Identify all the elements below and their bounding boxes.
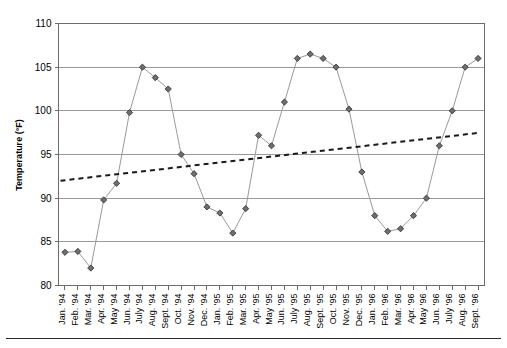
x-axis-tick-label: Mar. '96 [393,294,403,326]
x-axis-tick-label: Mar. '95 [238,294,248,326]
y-axis-title-text: Temperature (°F) [14,119,24,190]
y-axis-tick-label: 80 [40,280,52,291]
x-axis-tick-label: Nov. '94 [186,294,196,326]
x-axis-tick-label: Aug. '94 [147,294,157,327]
y-axis-tick-label: 85 [40,236,52,247]
y-axis-tick-label: 95 [40,149,52,160]
x-axis-tick-label: Nov. '95 [341,294,351,326]
x-axis-tick-label: Dec. '94 [199,294,209,327]
x-axis-tick-label: Jun. '95 [276,294,286,325]
x-axis-tick-label: Oct. '95 [328,294,338,325]
y-axis-tick-label: 100 [35,105,52,116]
x-axis-tick-label: May '95 [264,294,274,325]
temperature-line-chart: Temperature (°F) 80859095100105110 Jan. … [0,0,507,348]
x-axis-tick-label: Mar. '94 [83,294,93,326]
x-axis-tick-label: Sept. '94 [160,294,170,329]
y-axis-tick-label: 110 [36,18,52,29]
x-axis-tick-label: Apr. '96 [406,294,416,324]
x-axis-tick-label: Oct. '94 [173,294,183,325]
x-axis-tick-label: Jun. '96 [431,294,441,325]
chart-canvas: Temperature (°F) 80859095100105110 Jan. … [0,0,507,348]
x-axis-tick-label: July '95 [289,294,299,324]
x-axis-tick-label: Jan. '96 [367,294,377,325]
x-axis-tick-label: Sept. '96 [470,293,480,328]
x-axis-tick-label: July '94 [134,294,144,324]
x-axis-tick-label: Apr. '94 [96,294,106,324]
y-axis-tick-label: 90 [40,193,52,204]
x-axis-tick-label: Aug. '95 [302,294,312,327]
x-axis-tick-label: July '96 [444,294,454,324]
x-axis-tick-label: May '94 [109,294,119,325]
x-axis-tick-label: Apr. '95 [251,294,261,324]
x-axis-tick-label: May '96 [418,294,428,325]
x-axis-tick-label: Jan. '94 [57,294,67,325]
y-axis-tick-label: 105 [35,62,52,73]
x-axis-tick-label: Feb. '96 [380,294,390,326]
x-axis-tick-label: Feb. '94 [70,294,80,326]
x-axis-tick-label: Dec. '95 [354,294,364,327]
y-axis-title: Temperature (°F) [14,119,24,190]
x-axis-tick-label: Jun. '94 [122,294,132,325]
x-axis-tick-label: Jan. '95 [212,294,222,325]
x-axis-tick-label: Sept. '95 [315,294,325,329]
x-axis-tick-label: Feb. '95 [225,294,235,326]
x-axis-tick-label: Aug. '96 [457,294,467,327]
